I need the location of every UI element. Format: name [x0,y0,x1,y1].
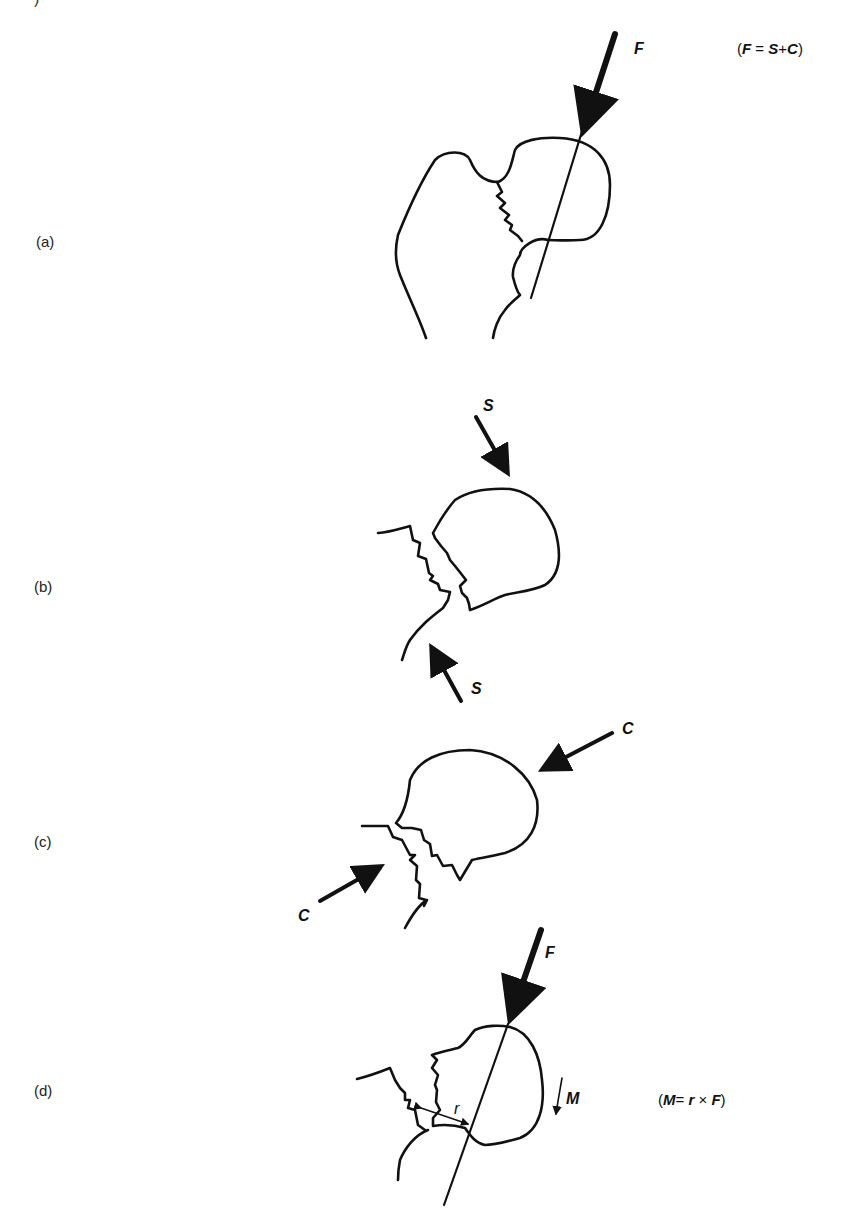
shear-arrow-bottom [433,650,461,701]
femoral-head-b [433,489,559,610]
femoral-neck-d [357,1068,428,1180]
figure-canvas [0,0,848,1209]
femoral-head-c [396,750,538,880]
compression-arrow-right [545,733,612,768]
force-line-d [444,1024,508,1205]
shear-arrow-top [476,417,506,470]
femoral-neck-b [378,526,450,660]
femoral-neck-c [362,826,427,928]
moment-arm-r [421,1108,468,1124]
moment-arrow-M [556,1078,562,1114]
force-arrow-F-d [512,930,541,1014]
femur-outline-a [396,138,610,338]
force-arrow-F-a [585,34,615,126]
compression-arrow-left [320,868,378,901]
force-line-a [531,128,583,298]
